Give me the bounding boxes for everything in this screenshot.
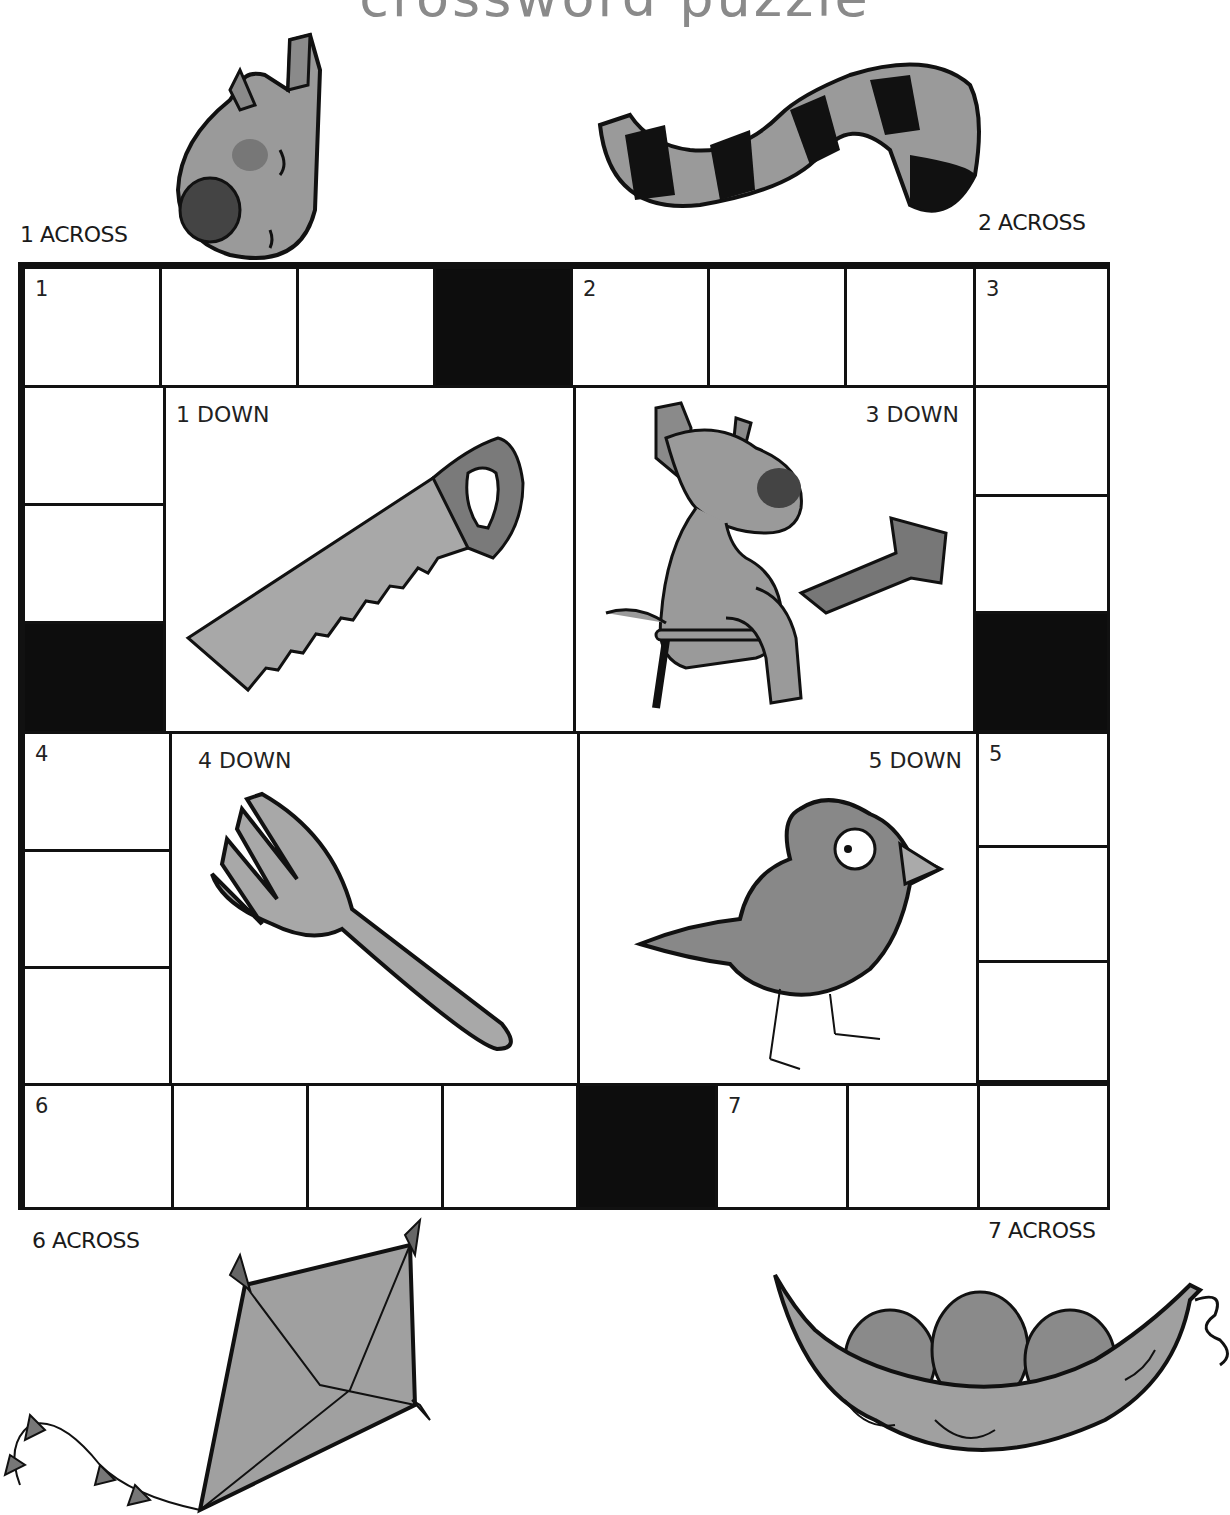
grid-cell[interactable]: 5 [976, 731, 1110, 848]
grid-cell[interactable]: 6 [22, 1083, 174, 1210]
cell-number: 1 [35, 277, 48, 301]
grid-cell[interactable] [306, 1083, 444, 1210]
grid-cell[interactable] [296, 266, 436, 388]
grid-cell[interactable] [707, 266, 847, 388]
grid-cell[interactable] [441, 1083, 579, 1210]
striped-tail-icon [590, 55, 990, 230]
black-cell [433, 266, 573, 388]
grid-cell[interactable] [977, 1083, 1110, 1210]
black-cell [576, 1083, 718, 1210]
grid-cell[interactable]: 2 [570, 266, 710, 388]
bird-icon [630, 784, 970, 1074]
grid-cell[interactable] [159, 266, 299, 388]
grid-cell[interactable]: 1 [22, 266, 162, 388]
cell-number: 2 [583, 277, 596, 301]
picture-panel-5-down: 5 DOWN [577, 731, 979, 1086]
black-cell [22, 621, 172, 734]
grid-cell[interactable] [844, 266, 984, 388]
grid-cell[interactable] [22, 849, 172, 969]
picture-panel-1-down: 1 DOWN [163, 385, 576, 735]
clue-label-5-down: 5 DOWN [869, 748, 962, 773]
peas-in-pod-icon [765, 1270, 1230, 1470]
cell-number: 6 [35, 1094, 48, 1118]
grid-cell[interactable]: 3 [973, 266, 1110, 388]
grid-cell[interactable] [976, 845, 1110, 963]
grid-cell[interactable] [976, 960, 1110, 1083]
grid-cell[interactable] [22, 503, 166, 624]
grid-cell[interactable] [22, 385, 166, 506]
picture-panel-4-down: 4 DOWN [169, 731, 580, 1086]
clue-label-7-across: 7 ACROSS [988, 1218, 1096, 1243]
crossword-grid: 1 2 3 1 DOWN 3 DOWN [18, 262, 1110, 1210]
clue-label-2-across: 2 ACROSS [978, 210, 1086, 235]
cell-number: 7 [728, 1094, 741, 1118]
saw-icon [178, 408, 558, 698]
black-cell [973, 611, 1110, 733]
cell-number: 4 [35, 742, 48, 766]
kite-icon [0, 1215, 440, 1515]
fork-icon [202, 794, 562, 1074]
grid-cell[interactable]: 7 [715, 1083, 849, 1210]
grid-cell[interactable] [171, 1083, 309, 1210]
grid-cell[interactable] [22, 966, 172, 1086]
clue-label-4-down: 4 DOWN [198, 748, 291, 773]
clue-label-1-across: 1 ACROSS [20, 222, 128, 247]
grid-cell[interactable] [973, 494, 1110, 614]
grid-cell[interactable] [846, 1083, 980, 1210]
grid-cell[interactable] [973, 385, 1110, 497]
page-title: crossword puzzle [0, 0, 1230, 29]
dog-head-icon [170, 30, 370, 260]
cell-number: 3 [986, 277, 999, 301]
cell-number: 5 [989, 742, 1002, 766]
dog-on-stool-icon [596, 398, 966, 718]
picture-panel-3-down: 3 DOWN [573, 385, 976, 735]
grid-cell[interactable]: 4 [22, 731, 172, 852]
